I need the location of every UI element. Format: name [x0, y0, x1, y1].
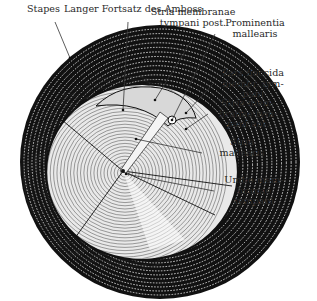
eardrum-figure: StapesLanger Fortsatz des AmbossStria me… [0, 0, 317, 301]
leader-dot-stria-mallearis [135, 138, 138, 141]
leader-dot-pars-flaccida [185, 112, 188, 115]
leader-dot-umbo [125, 173, 128, 176]
label-line: Prominentia [225, 18, 285, 29]
leader-dot-langer-fortsatz [122, 109, 125, 112]
umbo-point [121, 169, 125, 173]
label-line: Pars flaccida [222, 68, 284, 79]
label-line: Stria [220, 137, 265, 148]
label-stria-mallearis: Striamallearis [220, 137, 265, 158]
leader-line-stapes [55, 22, 70, 58]
label-stria-ant: Stria mem-branae tym-pani ant. [219, 98, 278, 130]
leader-dot-stria-post [154, 99, 157, 102]
label-line: tympani post. [151, 18, 236, 29]
leader-dot-stapes [69, 57, 72, 60]
label-umbo: Umbo mem-branaetympani [224, 175, 283, 207]
label-line: Stapes [27, 4, 60, 15]
label-line: Stria membranae [151, 7, 236, 18]
label-line: tympani [224, 196, 283, 207]
label-stria-post: Stria membranaetympani post. [151, 7, 236, 28]
label-prominentia: Prominentiamallearis [225, 18, 285, 39]
label-pars-flaccida: Pars flaccidamembr. tym-pani [222, 68, 284, 100]
leader-dot-prominentia [171, 119, 174, 122]
label-line: mallearis [220, 148, 265, 159]
label-line: pani ant. [219, 119, 278, 130]
label-line: Umbo mem- [224, 175, 283, 186]
label-line: mallearis [225, 29, 285, 40]
eardrum-illustration [0, 0, 317, 301]
label-line: Stria mem- [219, 98, 278, 109]
label-stapes: Stapes [27, 4, 60, 15]
leader-dot-stria-ant [185, 128, 188, 131]
